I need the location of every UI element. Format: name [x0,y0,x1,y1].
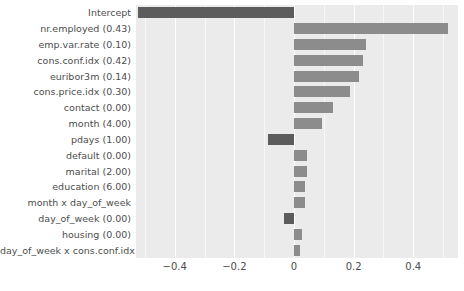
bar [294,102,333,113]
y-axis-tick-label: contact (0.00) [0,102,131,113]
bar [294,150,307,161]
bar [294,39,366,50]
y-axis-tick-label: marital (2.00) [0,166,131,177]
bar [294,86,350,97]
bar [294,71,359,82]
bar [294,197,305,208]
bar [294,229,302,240]
x-axis-tick-label: 0.4 [405,261,421,272]
bar [294,23,448,34]
x-axis-tick-label: 0 [291,261,297,272]
bar [294,55,363,66]
y-axis-tick-label: emp.var.rate (0.10) [0,39,131,50]
y-axis-tick-label: education (6.00) [0,181,131,192]
y-axis-tick-label: default (0.00) [0,150,131,161]
plot-area [136,5,458,258]
bar [294,118,322,129]
y-axis-tick-label: housing (0.00) [0,229,131,240]
y-axis-tick-label: cons.conf.idx (0.42) [0,55,131,66]
y-axis-tick-label: pdays (1.00) [0,134,131,145]
bar [294,166,307,177]
x-axis-tick-label: 0.2 [346,261,362,272]
bar [294,245,300,256]
x-axis-tick-label: −0.2 [222,261,246,272]
y-axis-tick-label: euribor3m (0.14) [0,71,131,82]
bar [138,7,294,18]
bar [268,134,294,145]
y-axis-tick-label: month x day_of_week [0,197,131,208]
y-axis-tick-label: nr.employed (0.43) [0,23,131,34]
coefficient-bar-chart: Interceptnr.employed (0.43)emp.var.rate … [0,0,464,291]
bar [294,181,305,192]
bars-layer [136,5,458,258]
x-axis-labels: −0.4−0.200.20.4 [136,261,458,277]
y-axis-tick-label: Intercept [0,7,131,18]
y-axis-tick-label: day_of_week (0.00) [0,213,131,224]
y-axis-labels: Interceptnr.employed (0.43)emp.var.rate … [0,5,131,258]
x-axis-tick-label: −0.4 [163,261,187,272]
y-axis-tick-label: cons.price.idx (0.30) [0,86,131,97]
y-axis-tick-label: day_of_week x cons.conf.idx [0,245,131,256]
bar [284,213,294,224]
y-axis-tick-label: month (4.00) [0,118,131,129]
